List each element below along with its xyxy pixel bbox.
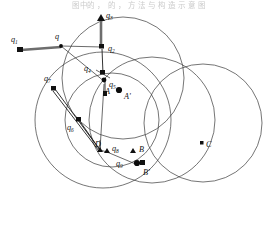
label-q7: q7 <box>44 74 51 84</box>
marker-q2 <box>99 44 104 49</box>
marker-q9 <box>134 160 140 166</box>
marker-C <box>200 141 204 145</box>
figure-root: 图中的 ， 的 ， 方 法 与 构 造 示 意 图 <box>0 0 278 236</box>
label-q6: q6 <box>67 123 74 133</box>
label-A-prime: A' <box>123 92 131 101</box>
label-q2: q2 <box>108 44 115 54</box>
label-A: A <box>104 87 111 96</box>
label-q5: q5 <box>109 80 116 90</box>
label-q8: q8 <box>112 144 119 154</box>
segment-q1-to-q <box>21 47 61 50</box>
segment-q-to-q2 <box>61 46 102 47</box>
label-q4: q4 <box>84 64 91 74</box>
marker-q6 <box>76 117 81 122</box>
label-B: B <box>139 145 144 154</box>
marker-q8 <box>104 148 110 153</box>
label-q3: q3 <box>106 11 113 21</box>
segment-q-to-q5 <box>61 46 105 82</box>
label-q9: q9 <box>116 159 123 169</box>
marker-B <box>130 148 136 153</box>
geometry-diagram: q1 q q3 q2 q4 q5 q7 q6 q8 q9 D A A' B B'… <box>0 0 278 236</box>
label-q: q <box>55 32 59 41</box>
circle-4 <box>89 57 215 183</box>
label-D: D <box>94 140 101 149</box>
marker-group <box>17 44 204 166</box>
marker-q7 <box>51 86 56 91</box>
label-B-prime: B' <box>143 168 150 177</box>
label-C: C <box>206 140 212 149</box>
q3-arrowhead <box>97 14 105 21</box>
marker-q5 <box>102 78 107 83</box>
marker-q <box>59 44 63 48</box>
circle-5 <box>144 64 262 182</box>
marker-B-prime <box>140 160 145 165</box>
circle-group <box>35 17 262 188</box>
marker-q1 <box>17 47 23 52</box>
marker-q4 <box>100 70 105 75</box>
label-q1: q1 <box>11 35 18 45</box>
marker-A-prime <box>116 87 122 93</box>
